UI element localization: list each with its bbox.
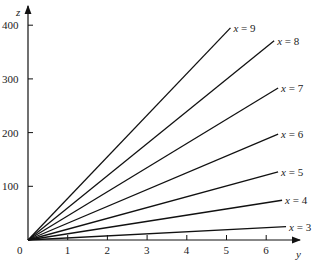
series-label: x = 8 — [276, 35, 300, 47]
x-tick-label: 5 — [224, 244, 230, 256]
series-label: x = 5 — [280, 166, 304, 178]
y-tick-label: 400 — [2, 19, 19, 31]
x-tick-label: 4 — [184, 244, 190, 256]
z-axis-label: z — [15, 6, 21, 18]
y-tick-label: 200 — [2, 127, 19, 139]
series-lines: x = 3x = 4x = 5x = 6x = 7x = 8x = 9 — [28, 22, 312, 240]
y-tick-label: 100 — [2, 180, 19, 192]
series-label: x = 6 — [280, 128, 304, 140]
series-line — [28, 172, 278, 240]
series-line — [28, 227, 286, 240]
series-label: x = 9 — [232, 22, 256, 34]
series-label: x = 3 — [288, 221, 312, 233]
x-tick-label: 6 — [263, 244, 269, 256]
x-ticks: 123456 — [65, 235, 270, 256]
chart: z y 0 123456 100200300400 x = 3x = 4x = … — [0, 0, 321, 267]
series-line — [28, 41, 274, 240]
series-label: x = 7 — [280, 82, 304, 94]
x-tick-label: 2 — [104, 244, 110, 256]
x-tick-label: 1 — [65, 244, 71, 256]
series-line — [28, 28, 230, 240]
y-axis-label: y — [295, 248, 301, 260]
x-tick-label: 3 — [144, 244, 150, 256]
y-tick-label: 300 — [2, 73, 19, 85]
series-line — [28, 88, 278, 240]
series-label: x = 4 — [284, 194, 308, 206]
origin-label: 0 — [17, 244, 23, 256]
series-line — [28, 134, 278, 240]
